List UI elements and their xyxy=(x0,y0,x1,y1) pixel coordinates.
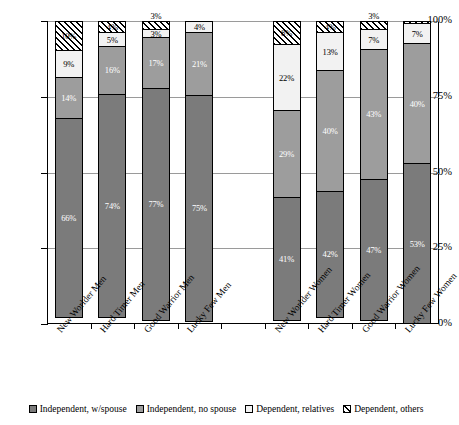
segment-value-label: 75% xyxy=(186,204,212,213)
legend-label: Dependent, relatives xyxy=(256,404,334,414)
bar-segment[interactable]: 9% xyxy=(55,50,83,77)
bar-segment[interactable]: 66% xyxy=(55,118,83,318)
segment-value-label: 17% xyxy=(143,58,169,67)
segment-value-label: 7% xyxy=(404,29,430,38)
bar-segment[interactable]: 40% xyxy=(316,70,344,191)
segment-value-label: 13% xyxy=(317,47,343,56)
segment-value-label: 77% xyxy=(143,200,169,209)
segment-value-label: 8% xyxy=(274,29,300,38)
bar-segment[interactable]: 75% xyxy=(185,95,213,322)
segment-value-label: 4% xyxy=(317,23,343,32)
clipped-chart-title xyxy=(60,0,400,6)
bar-segment[interactable]: 7% xyxy=(360,29,388,50)
segment-value-label: 4% xyxy=(186,23,212,32)
bar-segment[interactable]: 17% xyxy=(142,37,170,89)
segment-value-label: 74% xyxy=(99,201,125,210)
bar-segment[interactable]: 21% xyxy=(185,32,213,96)
bar-segment[interactable]: 40% xyxy=(403,43,431,164)
bar-segment[interactable]: 10% xyxy=(55,21,83,51)
bar-segment[interactable]: 43% xyxy=(360,49,388,179)
bar-segment[interactable]: 22% xyxy=(273,44,301,111)
segment-value-label: 14% xyxy=(56,93,82,102)
segment-value-label: 4% xyxy=(99,23,125,32)
legend-swatch xyxy=(343,405,351,413)
bar-new-worlder-women[interactable]: 8%22%29%41% xyxy=(273,21,301,324)
segment-value-label: 7% xyxy=(361,35,387,44)
bar-segment[interactable]: 13% xyxy=(316,32,344,71)
bar-segment[interactable]: 29% xyxy=(273,110,301,198)
legend-item[interactable]: Independent, no spouse xyxy=(136,404,236,414)
legend-swatch xyxy=(29,405,37,413)
legend-label: Independent, no spouse xyxy=(147,404,236,414)
segment-value-label: 40% xyxy=(317,127,343,136)
y-axis-tick xyxy=(41,324,48,325)
segment-value-label: 66% xyxy=(56,213,82,222)
segment-value-label: 21% xyxy=(186,59,212,68)
legend-swatch xyxy=(136,405,144,413)
segment-value-label: 42% xyxy=(317,250,343,259)
legend-item[interactable]: Independent, w/spouse xyxy=(29,404,127,414)
segment-value-label: 3% xyxy=(143,12,169,21)
bar-segment[interactable]: 5% xyxy=(98,32,126,47)
segment-value-label: 41% xyxy=(274,254,300,263)
bar-segment[interactable]: 16% xyxy=(98,46,126,94)
legend-label: Dependent, others xyxy=(354,404,423,414)
segment-value-label: 10% xyxy=(56,32,82,41)
segment-value-label: 29% xyxy=(274,149,300,158)
segment-value-label: 3% xyxy=(361,12,387,21)
legend-item[interactable]: Dependent, relatives xyxy=(245,404,334,414)
bar-good-warrior-men[interactable]: 3%3%17%77% xyxy=(142,21,170,324)
bar-segment[interactable]: 14% xyxy=(55,77,83,119)
segment-value-label: 53% xyxy=(404,239,430,248)
legend-swatch xyxy=(245,405,253,413)
segment-value-label: 16% xyxy=(99,66,125,75)
segment-value-label: 5% xyxy=(99,35,125,44)
x-axis-labels: New Worlder MenHard Timer MenGood Warrio… xyxy=(0,328,452,400)
segment-value-label: 22% xyxy=(274,73,300,82)
bar-segment[interactable]: 8% xyxy=(273,21,301,45)
segment-value-label: 43% xyxy=(361,110,387,119)
bar-new-worlder-men[interactable]: 10%9%14%66% xyxy=(55,21,83,324)
chart-legend: Independent, w/spouseIndependent, no spo… xyxy=(0,404,452,414)
bar-segment[interactable]: 7% xyxy=(403,23,431,44)
legend-item[interactable]: Dependent, others xyxy=(343,404,423,414)
segment-value-label: 9% xyxy=(56,59,82,68)
segment-value-label: 40% xyxy=(404,99,430,108)
segment-value-label: 47% xyxy=(361,245,387,254)
legend-label: Independent, w/spouse xyxy=(40,404,127,414)
